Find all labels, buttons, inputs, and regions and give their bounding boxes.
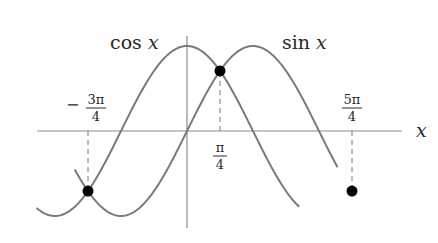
sin-label: sin x [282,31,327,53]
plot-area: cos x sin x x − 3π 4 π 4 5π 4 [0,0,438,243]
svg-text:4: 4 [216,157,224,172]
tick-label-5pi-4: 5π 4 [342,92,362,124]
tick-label-neg-3pi-4: − 3π 4 [66,92,106,124]
intersection-point [83,186,94,197]
trig-diagram: cos x sin x x − 3π 4 π 4 5π 4 [0,0,438,243]
intersection-point [214,65,225,76]
svg-text:4: 4 [92,109,100,124]
svg-text:4: 4 [348,109,356,124]
tick-label-pi-4: π 4 [213,140,227,172]
intersection-point [347,186,358,197]
x-axis-label: x [416,119,427,141]
svg-text:π: π [216,140,225,155]
svg-text:−: − [66,95,79,114]
cos-label: cos x [110,31,159,53]
svg-text:5π: 5π [344,92,361,107]
svg-text:3π: 3π [88,92,105,107]
